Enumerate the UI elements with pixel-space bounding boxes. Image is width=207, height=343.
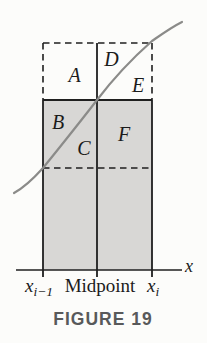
tick-label-x-i-minus-1: xi−1 [24, 275, 53, 299]
region-label-d: D [103, 48, 119, 70]
x-axis-label: x [184, 256, 193, 276]
region-label-c: C [77, 137, 91, 159]
tick-label-x-left-subscript: i−1 [33, 284, 53, 299]
region-label-b: B [52, 111, 64, 133]
region-label-f: F [117, 123, 131, 145]
midpoint-rule-diagram: A D E B C F x xi−1 Midpoint xi FIGURE 19 [0, 0, 207, 343]
tick-label-x-right-subscript: i [155, 284, 159, 299]
tick-label-midpoint: Midpoint [65, 275, 136, 296]
region-label-e: E [131, 74, 144, 96]
tick-label-x-i: xi [146, 275, 159, 299]
figure-caption: FIGURE 19 [53, 309, 152, 329]
region-label-a: A [66, 64, 81, 86]
figure-19: A D E B C F x xi−1 Midpoint xi FIGURE 19 [0, 0, 207, 343]
